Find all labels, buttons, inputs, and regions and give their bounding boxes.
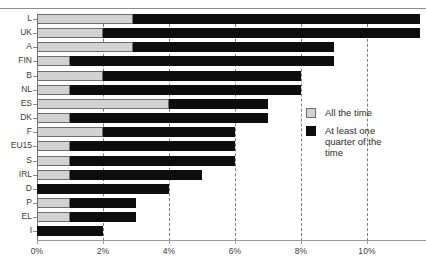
y-axis-label-nl: NL [0,84,32,94]
y-axis-label-es: ES [0,98,32,108]
x-axis-tick-mark [235,240,236,244]
bar-segment-at-least-one-quarter-el [70,212,136,222]
y-axis-label-d: D [0,183,32,193]
bar-segment-all-the-time-a [37,42,133,52]
x-tick-label-0: 0% [17,246,57,256]
y-axis-label-i: I [0,225,32,235]
y-axis-label-a: A [0,41,32,51]
legend-item-all-the-time: All the time [306,107,422,118]
y-axis-label-uk: UK [0,27,32,37]
x-axis-tick-mark [367,240,368,244]
legend-label-all-the-time: All the time [325,107,372,118]
bar-segment-all-the-time-irl [37,170,70,180]
x-tick-label-8: 8% [281,246,321,256]
bar-segment-all-the-time-f [37,127,103,137]
bar-segment-all-the-time-s [37,156,70,166]
y-axis-label-b: B [0,70,32,80]
x-tick-label-2: 2% [83,246,123,256]
bar-segment-all-the-time-es [37,99,169,109]
top-divider-rule [0,8,426,9]
bar-segment-all-the-time-fin [37,56,70,66]
x-tick-label-6: 6% [215,246,255,256]
bar-segment-at-least-one-quarter-fin [70,56,334,66]
y-axis-label-p: P [0,197,32,207]
y-axis-label-s: S [0,155,32,165]
bar-segment-all-the-time-l [37,14,133,24]
bar-segment-all-the-time-dk [37,113,70,123]
bar-segment-all-the-time-b [37,71,103,81]
y-axis-label-f: F [0,126,32,136]
bar-segment-at-least-one-quarter-p [70,198,136,208]
bar-segment-at-least-one-quarter-f [103,127,235,137]
legend-swatch-gray-icon [306,108,316,118]
bar-segment-at-least-one-quarter-l [133,14,420,24]
x-axis-tick-mark [301,240,302,244]
x-axis-tick-mark [103,240,104,244]
y-axis-label-l: L [0,13,32,23]
legend-swatch-black-icon [306,126,316,136]
chart-legend: All the time At least one quarter of the… [306,107,422,165]
bar-segment-all-the-time-p [37,198,70,208]
bar-segment-at-least-one-quarter-irl [70,170,202,180]
legend-item-at-least-one-quarter: At least one quarter of the time [306,125,422,158]
x-axis-tick-mark [37,240,38,244]
bar-segment-all-the-time-nl [37,85,70,95]
bar-segment-at-least-one-quarter-dk [70,113,268,123]
bar-chart: 0%2%4%6%8%10% LUKAFINBNLESDKFEU15SIRLDPE… [0,0,426,267]
y-axis-label-fin: FIN [0,55,32,65]
y-axis-label-dk: DK [0,112,32,122]
legend-label-at-least-one-quarter: At least one quarter of the time [325,125,399,158]
bar-segment-all-the-time-uk [37,28,103,38]
x-tick-label-4: 4% [149,246,189,256]
bar-segment-at-least-one-quarter-nl [70,85,301,95]
bar-segment-at-least-one-quarter-a [133,42,334,52]
y-axis-label-el: EL [0,211,32,221]
bar-segment-at-least-one-quarter-uk [103,28,420,38]
x-tick-label-10: 10% [347,246,387,256]
bar-segment-at-least-one-quarter-i [37,226,103,236]
bar-segment-at-least-one-quarter-d [37,184,169,194]
bar-segment-at-least-one-quarter-es [169,99,268,109]
y-axis-label-irl: IRL [0,169,32,179]
bar-segment-at-least-one-quarter-eu15 [70,141,235,151]
x-axis-tick-mark [169,240,170,244]
bar-segment-at-least-one-quarter-b [103,71,301,81]
bar-segment-at-least-one-quarter-s [70,156,235,166]
bar-segment-all-the-time-eu15 [37,141,70,151]
y-axis-label-eu15: EU15 [0,140,32,150]
bar-segment-all-the-time-el [37,212,70,222]
